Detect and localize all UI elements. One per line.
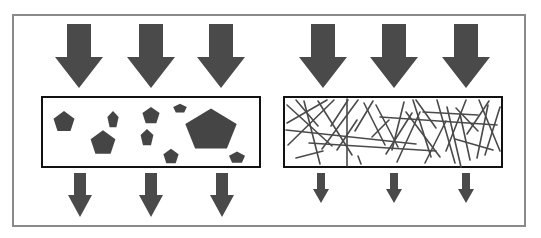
particle-filter-panel — [42, 24, 260, 217]
outflow-arrow-icon — [458, 173, 474, 203]
outflow-arrow-icon — [210, 173, 234, 217]
inflow-arrow-icon — [127, 24, 175, 88]
inflow-arrow-icon — [55, 24, 103, 88]
inflow-arrow-icon — [197, 24, 245, 88]
filtration-diagram — [0, 0, 541, 238]
inflow-arrow-icon — [370, 24, 418, 88]
outflow-arrow-icon — [313, 173, 329, 203]
fiber-filter-panel — [284, 24, 502, 203]
inflow-arrow-icon — [299, 24, 347, 88]
outflow-arrow-icon — [139, 173, 163, 217]
outflow-arrow-icon — [68, 173, 92, 217]
outflow-arrow-icon — [386, 173, 402, 203]
inflow-arrow-icon — [442, 24, 490, 88]
